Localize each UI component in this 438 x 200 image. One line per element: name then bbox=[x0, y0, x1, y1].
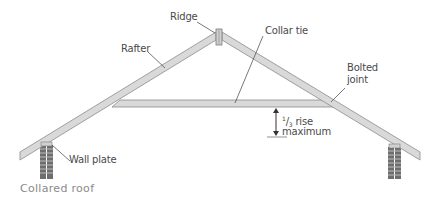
rise-maximum-label: maximum bbox=[282, 126, 331, 138]
rafter-leader bbox=[148, 52, 165, 68]
ridge-label: Ridge bbox=[170, 11, 198, 23]
bolted-joint-label-line1: Bolted bbox=[347, 62, 378, 74]
left-rafter bbox=[20, 32, 216, 160]
wall-plate-label: Wall plate bbox=[69, 154, 116, 166]
rafter-label: Rafter bbox=[121, 43, 150, 55]
left-wall-plate bbox=[41, 142, 52, 146]
wall-plate-leader bbox=[52, 145, 70, 161]
collared-roof-diagram bbox=[0, 0, 438, 200]
right-rafter bbox=[222, 32, 420, 160]
collar-tie-label: Collar tie bbox=[265, 25, 308, 37]
ridge-leader bbox=[197, 22, 215, 33]
diagram-caption: Collared roof bbox=[20, 182, 94, 195]
bolted-joint-label-line2: joint bbox=[347, 74, 368, 86]
collar-tie bbox=[112, 100, 335, 107]
right-wall-plate bbox=[389, 144, 400, 148]
bolted-joint-leader bbox=[331, 88, 345, 102]
left-brick-pier bbox=[40, 145, 53, 179]
right-brick-pier bbox=[388, 147, 401, 179]
